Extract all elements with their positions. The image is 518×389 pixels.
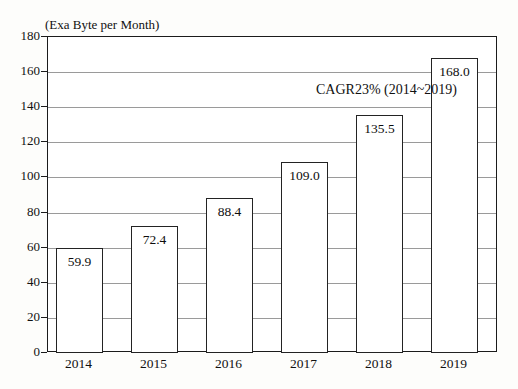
y-axis-tick-label: 140 xyxy=(4,99,40,112)
gridline xyxy=(48,72,496,73)
y-axis-tick-label-wrap: 0 xyxy=(0,345,40,358)
y-axis-tick-label-wrap: 180 xyxy=(0,29,40,42)
y-axis-tick-label: 120 xyxy=(4,134,40,147)
y-axis-tick-label: 40 xyxy=(4,275,40,288)
plot-area: 59.972.488.4109.0135.5168.0 CAGR23% (201… xyxy=(47,36,497,352)
bar-value-label: 168.0 xyxy=(432,64,477,79)
y-axis-tick-label: 60 xyxy=(4,240,40,253)
y-axis-tick-label: 80 xyxy=(4,205,40,218)
y-axis-tick-label-wrap: 20 xyxy=(0,310,40,323)
x-axis-tick-label: 2016 xyxy=(191,356,266,372)
y-axis-tick-label-wrap: 80 xyxy=(0,205,40,218)
y-axis-tick-label-wrap: 40 xyxy=(0,275,40,288)
bar-value-label: 88.4 xyxy=(207,204,252,219)
gridline xyxy=(48,107,496,108)
gridline xyxy=(48,142,496,143)
bar-value-label: 72.4 xyxy=(132,232,177,247)
bar-value-label: 135.5 xyxy=(357,121,402,136)
y-axis-tick-label: 160 xyxy=(4,64,40,77)
bar: 168.0 xyxy=(431,58,478,353)
bar: 72.4 xyxy=(131,226,178,353)
bar-value-label: 109.0 xyxy=(282,168,327,183)
y-axis-tick-label-wrap: 140 xyxy=(0,99,40,112)
y-axis-tick-label-wrap: 100 xyxy=(0,169,40,182)
gridline xyxy=(48,213,496,214)
x-axis-tick-label: 2015 xyxy=(116,356,191,372)
cagr-annotation: CAGR23% (2014~2019) xyxy=(316,82,457,98)
y-axis-tick-label: 180 xyxy=(4,29,40,42)
bar: 135.5 xyxy=(356,115,403,353)
gridline xyxy=(48,248,496,249)
gridline xyxy=(48,283,496,284)
bar: 59.9 xyxy=(56,248,103,353)
y-axis-tick-label-wrap: 160 xyxy=(0,64,40,77)
x-axis-tick-label: 2017 xyxy=(266,356,341,372)
gridline xyxy=(48,318,496,319)
y-axis-tick-label-wrap: 120 xyxy=(0,134,40,147)
y-axis-tick-label: 20 xyxy=(4,310,40,323)
bar-value-label: 59.9 xyxy=(57,254,102,269)
y-axis-tick xyxy=(41,352,47,353)
y-axis-unit-label: (Exa Byte per Month) xyxy=(45,17,159,32)
y-axis-tick-label: 100 xyxy=(4,169,40,182)
x-axis-tick-label: 2018 xyxy=(341,356,416,372)
bar: 88.4 xyxy=(206,198,253,353)
y-axis-tick-label: 0 xyxy=(4,345,40,358)
bar-chart: (Exa Byte per Month) 0204060801001201401… xyxy=(0,0,518,389)
y-axis-tick-label-wrap: 60 xyxy=(0,240,40,253)
x-axis-tick-label: 2014 xyxy=(41,356,116,372)
gridline xyxy=(48,177,496,178)
bar: 109.0 xyxy=(281,162,328,353)
x-axis-tick-label: 2019 xyxy=(416,356,491,372)
